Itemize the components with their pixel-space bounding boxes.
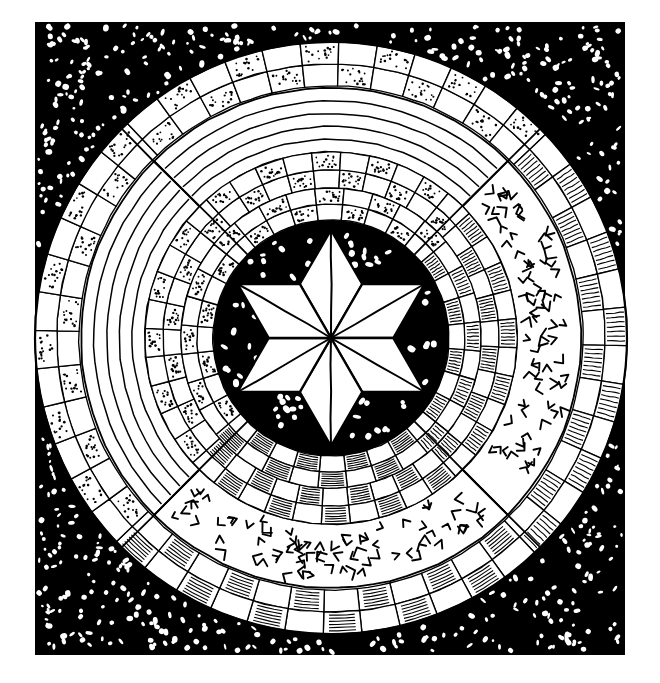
mandala-drawing (0, 0, 660, 683)
circular-medallion (35, 42, 627, 634)
artwork-canvas: Star Medallion Quilt Mandala pen-and-ink… (0, 0, 660, 683)
